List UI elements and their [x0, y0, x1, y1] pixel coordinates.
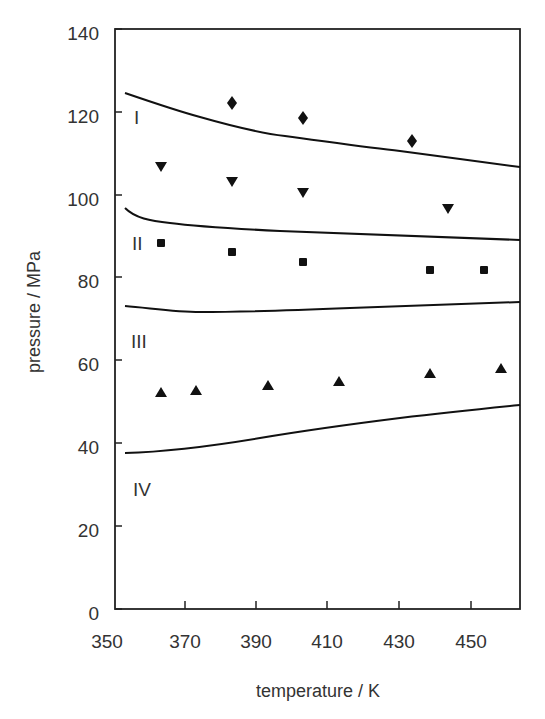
square-marker	[157, 239, 165, 247]
square-marker	[426, 266, 434, 274]
y-tick-140: 140	[67, 23, 99, 44]
x-axis-ticks	[185, 601, 471, 609]
triangle-up-marker	[333, 376, 345, 386]
square-marker	[228, 248, 236, 256]
x-tick-370: 370	[169, 631, 201, 652]
x-tick-390: 390	[240, 631, 272, 652]
series-triangle-up	[155, 363, 507, 397]
x-tick-450: 450	[455, 631, 487, 652]
triangle-up-marker	[190, 385, 202, 395]
series-triangle-down	[155, 162, 454, 214]
plot-frame	[115, 29, 520, 609]
y-axis-label: pressure / MPa	[24, 250, 44, 373]
y-tick-60: 60	[78, 354, 99, 375]
y-tick-40: 40	[78, 437, 99, 458]
curve-I	[125, 93, 520, 167]
diamond-marker	[227, 96, 237, 110]
y-tick-120: 120	[67, 106, 99, 127]
phase-diagram-chart: 0 20 40 60 80 100 120 140 350 370 390 41…	[0, 0, 545, 719]
square-marker	[299, 258, 307, 266]
y-tick-20: 20	[78, 520, 99, 541]
x-tick-430: 430	[383, 631, 415, 652]
triangle-up-marker	[495, 363, 507, 373]
triangle-up-marker	[424, 368, 436, 378]
x-tick-410: 410	[311, 631, 343, 652]
triangle-up-marker	[262, 380, 274, 390]
curve-IV	[125, 405, 520, 453]
triangle-down-marker	[442, 204, 454, 214]
region-label-I: I	[134, 107, 139, 128]
y-tick-100: 100	[67, 189, 99, 210]
y-tick-0: 0	[88, 603, 99, 624]
triangle-down-marker	[226, 177, 238, 187]
curve-II	[125, 208, 520, 240]
diamond-marker	[407, 134, 417, 148]
triangle-down-marker	[155, 162, 167, 172]
boundary-curves	[125, 93, 520, 453]
y-tick-80: 80	[78, 271, 99, 292]
region-label-II: II	[132, 233, 143, 254]
region-label-III: III	[131, 331, 147, 352]
triangle-down-marker	[297, 188, 309, 198]
region-labels: I II III IV	[131, 107, 151, 500]
triangle-up-marker	[155, 387, 167, 397]
y-axis-ticks	[115, 29, 122, 609]
series-square	[157, 239, 488, 274]
x-tick-labels: 350 370 390 410 430 450	[91, 631, 487, 652]
square-marker	[480, 266, 488, 274]
curve-III	[125, 302, 520, 312]
x-tick-350: 350	[91, 631, 123, 652]
x-axis-label: temperature / K	[256, 681, 380, 701]
diamond-marker	[298, 111, 308, 125]
y-tick-labels: 0 20 40 60 80 100 120 140	[67, 23, 99, 624]
region-label-IV: IV	[133, 479, 151, 500]
